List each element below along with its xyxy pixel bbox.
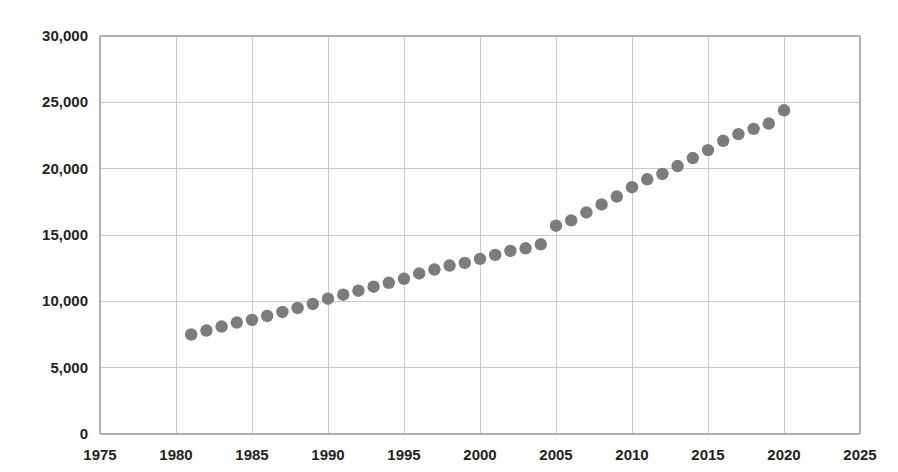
data-point: [747, 123, 759, 135]
data-point: [763, 117, 775, 129]
data-point: [215, 320, 227, 332]
scatter-chart: 05,00010,00015,00020,00025,00030,000 197…: [0, 0, 898, 472]
x-tick-label: 2025: [843, 446, 876, 463]
data-point: [611, 190, 623, 202]
data-point: [474, 253, 486, 265]
data-point: [413, 267, 425, 279]
x-tick-label: 2020: [767, 446, 800, 463]
data-point: [443, 259, 455, 271]
x-tick-label: 2010: [615, 446, 648, 463]
data-point: [231, 316, 243, 328]
data-point: [428, 263, 440, 275]
x-tick-label: 2005: [539, 446, 572, 463]
y-tick-label: 0: [80, 425, 88, 442]
chart-canvas: 05,00010,00015,00020,00025,00030,000 197…: [0, 0, 898, 472]
x-tick-label: 1985: [235, 446, 268, 463]
data-point: [550, 220, 562, 232]
y-tick-label: 15,000: [42, 226, 88, 243]
data-point: [717, 135, 729, 147]
data-point: [504, 245, 516, 257]
y-tick-label: 30,000: [42, 27, 88, 44]
y-tick-label: 20,000: [42, 160, 88, 177]
data-point: [383, 277, 395, 289]
x-axis-tick-labels: 1975198019851990199520002005201020152020…: [83, 446, 876, 463]
y-tick-label: 5,000: [50, 359, 88, 376]
x-tick-label: 1995: [387, 446, 420, 463]
data-point: [261, 310, 273, 322]
data-point: [732, 128, 744, 140]
data-point: [641, 173, 653, 185]
data-point: [200, 324, 212, 336]
data-point: [565, 214, 577, 226]
data-point: [352, 285, 364, 297]
x-tick-label: 2000: [463, 446, 496, 463]
x-tick-label: 1990: [311, 446, 344, 463]
data-point: [276, 306, 288, 318]
data-point-series: [185, 104, 790, 341]
data-point: [595, 198, 607, 210]
data-point: [322, 292, 334, 304]
data-point: [702, 144, 714, 156]
data-point: [535, 238, 547, 250]
y-tick-label: 10,000: [42, 292, 88, 309]
x-tick-label: 1980: [159, 446, 192, 463]
data-point: [367, 281, 379, 293]
data-point: [246, 314, 258, 326]
data-point: [671, 160, 683, 172]
data-point: [519, 242, 531, 254]
x-tick-label: 1975: [83, 446, 116, 463]
data-point: [778, 104, 790, 116]
data-point: [687, 152, 699, 164]
data-point: [459, 257, 471, 269]
data-point: [489, 249, 501, 261]
data-point: [337, 289, 349, 301]
data-point: [185, 328, 197, 340]
data-point: [626, 181, 638, 193]
data-point: [398, 273, 410, 285]
data-point: [656, 168, 668, 180]
data-point: [580, 206, 592, 218]
gridlines: [100, 36, 860, 434]
y-axis-tick-labels: 05,00010,00015,00020,00025,00030,000: [42, 27, 88, 442]
y-tick-label: 25,000: [42, 93, 88, 110]
data-point: [291, 302, 303, 314]
data-point: [307, 298, 319, 310]
x-tick-label: 2015: [691, 446, 724, 463]
